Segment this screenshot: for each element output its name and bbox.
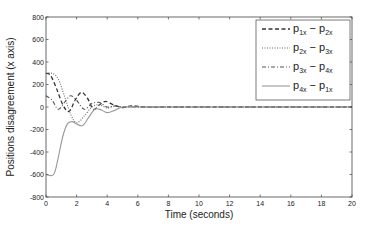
y-tick-label: 200 <box>32 81 44 88</box>
y-tick-label: 400 <box>32 59 44 66</box>
x-tick-label: 0 <box>44 200 48 207</box>
x-tick-label: 12 <box>226 200 234 207</box>
x-axis-label: Time (seconds) <box>165 209 234 220</box>
line-chart: 024681012141618208006004002000-200-400-6… <box>0 0 368 228</box>
y-tick-label: -200 <box>30 126 44 133</box>
x-tick-label: 16 <box>287 200 295 207</box>
y-tick-label: -800 <box>30 194 44 201</box>
x-tick-label: 18 <box>318 200 326 207</box>
y-tick-label: -400 <box>30 149 44 156</box>
x-tick-label: 2 <box>75 200 79 207</box>
y-tick-label: -600 <box>30 171 44 178</box>
legend: p1x − p2xp2x − p3xp3x − p4xp4x − p1x <box>256 20 350 100</box>
y-tick-label: 800 <box>32 14 44 21</box>
x-tick-label: 14 <box>256 200 264 207</box>
x-tick-label: 20 <box>348 200 356 207</box>
x-tick-label: 4 <box>105 200 109 207</box>
y-tick-label: 0 <box>40 104 44 111</box>
x-tick-label: 8 <box>166 200 170 207</box>
y-tick-label: 600 <box>32 36 44 43</box>
x-tick-label: 6 <box>136 200 140 207</box>
x-tick-label: 10 <box>195 200 203 207</box>
y-axis-label: Positions disagreement (x axis) <box>5 38 16 177</box>
